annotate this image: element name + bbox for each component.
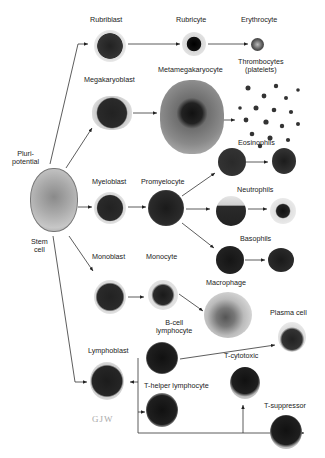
label-bcell: B-cell lymphocyte <box>156 319 192 335</box>
label-basophils: Basophils <box>240 235 271 243</box>
plasma-cell <box>278 322 306 352</box>
label-pluripotential: Pluri- potential <box>12 150 39 166</box>
monocyte-cell <box>148 280 178 310</box>
eosinophil-cell <box>272 148 296 174</box>
erythrocyte-cell <box>251 38 264 51</box>
t-helper-lymphocyte <box>146 393 178 427</box>
label-monocyte: Monocyte <box>146 253 177 261</box>
rubricyte-cell <box>182 32 206 56</box>
macrophage-cell <box>204 292 252 338</box>
label-monoblast: Monoblast <box>92 253 125 261</box>
label-thelper: T-helper lymphocyte <box>144 382 209 390</box>
basophil-cell <box>268 248 294 272</box>
promyelocyte-cell <box>148 190 184 226</box>
label-plasma-cell: Plasma cell <box>270 309 307 317</box>
myeloblast-cell <box>94 192 126 224</box>
label-lymphoblast: Lymphoblast <box>88 347 129 355</box>
label-thrombocytes-line2: (platelets) <box>238 66 284 74</box>
label-cell: cell <box>31 246 48 254</box>
label-myeloblast: Myeloblast <box>92 178 126 186</box>
artist-signature: GJW <box>92 414 114 424</box>
label-tsuppressor: T-suppressor <box>264 402 306 410</box>
eosinophil-precursor-cell <box>218 148 246 176</box>
t-cytotoxic-cell <box>230 367 260 399</box>
label-bcell-line2: lymphocyte <box>156 327 192 335</box>
monoblast-cell <box>94 280 126 314</box>
stem-cell <box>30 168 78 232</box>
megakaryoblast-cell <box>92 96 132 130</box>
rubriblast-cell <box>94 30 126 62</box>
label-erythrocyte: Erythrocyte <box>241 16 277 24</box>
label-neutrophils: Neutrophils <box>237 186 273 194</box>
metamegakaryocyte-cell <box>160 80 224 154</box>
label-tcytotoxic: T-cytotoxic <box>224 352 258 360</box>
label-thrombocytes: Thrombocytes (platelets) <box>238 58 284 74</box>
label-macrophage: Macrophage <box>206 279 246 287</box>
neutrophil-cell <box>270 198 296 224</box>
basophil-precursor-cell <box>216 246 244 274</box>
label-megakaryoblast: Megakaryoblast <box>84 76 135 84</box>
lymphoblast-cell <box>90 362 124 400</box>
thrombocytes-cluster <box>236 80 306 155</box>
label-stem-cell: Stem cell <box>31 238 48 254</box>
label-promyelocyte: Promyelocyte <box>141 178 185 186</box>
label-potential: potential <box>12 158 39 166</box>
label-metamegakaryocyte: Metamegakaryocyte <box>158 66 223 74</box>
neutrophil-precursor-cell <box>216 196 246 226</box>
b-cell-lymphocyte <box>146 342 178 374</box>
t-suppressor-cell <box>270 415 302 449</box>
label-rubricyte: Rubricyte <box>176 16 206 24</box>
label-rubriblast: Rubriblast <box>90 16 122 24</box>
